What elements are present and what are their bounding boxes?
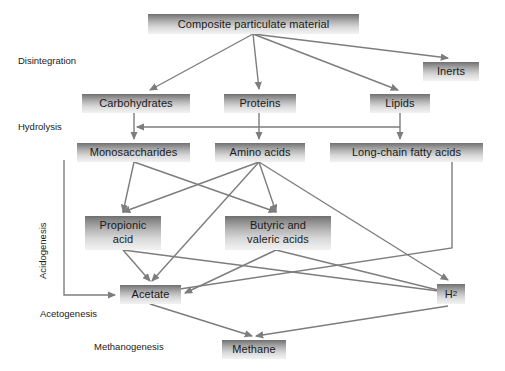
node-label: Composite particulate material [178,18,330,31]
node-lipids[interactable]: Lipids [370,94,430,113]
node-label: Lipids [385,97,414,110]
node-composite-particulate-material[interactable]: Composite particulate material [148,14,359,34]
node-amino-acids[interactable]: Amino acids [215,143,305,162]
node-long-chain-fatty-acids[interactable]: Long-chain fatty acids [330,143,483,162]
node-label: Butyric and valeric acids [247,219,309,247]
node-label: Long-chain fatty acids [352,146,461,159]
stage-label-disintegration: Disintegration [18,55,76,66]
node-label: Methane [232,343,276,356]
node-proteins[interactable]: Proteins [224,94,296,113]
node-label: Monosaccharides [90,146,178,159]
node-label: Inerts [437,65,465,78]
node-carbohydrates[interactable]: Carbohydrates [82,94,190,113]
node-inerts[interactable]: Inerts [423,62,479,81]
node-methane[interactable]: Methane [222,340,286,359]
edge-propionic-to-acetate [123,250,150,281]
edge-composite-to-carbs [150,34,253,90]
edge-acetate-to-methane [150,304,252,336]
edge-hydrogen-to-methane [256,306,448,336]
node-monosaccharides[interactable]: Monosaccharides [77,143,190,162]
stage-label-methanogenesis: Methanogenesis [94,341,164,352]
node-label: H [445,288,453,301]
node-hydrogen[interactable]: H2 [437,284,465,304]
node-label-subscript: 2 [453,289,458,298]
edge-aminoacids-to-butyric [259,162,276,212]
node-acetate[interactable]: Acetate [120,285,181,304]
node-label: Acetate [131,288,169,301]
edge-butyric-to-acetate [185,250,276,293]
stage-label-hydrolysis: Hydrolysis [18,121,62,132]
stage-label-acetogenesis: Acetogenesis [40,308,97,319]
node-label: Amino acids [229,146,290,159]
node-label: Proteins [239,97,280,110]
node-butyric-and-valeric-acids[interactable]: Butyric and valeric acids [225,216,331,250]
anaerobic-digestion-diagram: Composite particulate material Inerts Ca… [0,0,505,371]
edge-monosacch-to-propionic [123,162,134,212]
node-label: Carbohydrates [99,97,172,110]
node-propionic-acid[interactable]: Propionic acid [85,216,161,250]
edge-monosacch-to-butyric [134,162,276,212]
edge-composite-to-proteins [253,34,259,89]
node-label: Propionic acid [100,219,147,247]
stage-label-acidogenesis: Acidogenesis [37,222,48,279]
edge-aminoacids-to-propionic [123,162,259,212]
